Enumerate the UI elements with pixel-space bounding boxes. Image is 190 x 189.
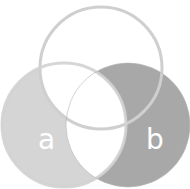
set-a-label: a xyxy=(38,123,55,156)
set-b-region xyxy=(66,63,190,187)
set-b-label: b xyxy=(146,123,164,156)
venn-diagram: a b xyxy=(0,0,190,189)
